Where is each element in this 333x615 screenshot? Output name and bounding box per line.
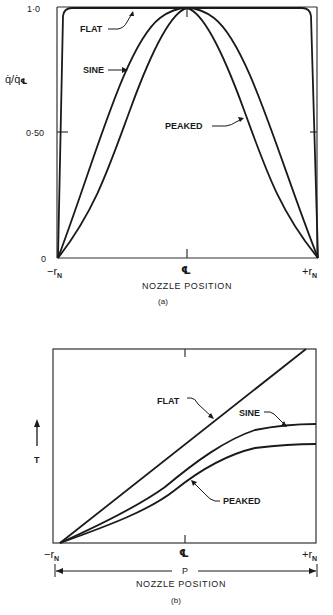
plot-a-arrowhead-flat bbox=[129, 11, 134, 16]
plot-a-curve-peaked bbox=[58, 8, 318, 258]
plot-b-xtick-centerline: ℄ bbox=[179, 547, 189, 559]
plot-a-ytick-1: 1·0 bbox=[27, 4, 40, 14]
plot-a-leader-flat bbox=[108, 12, 133, 29]
plot-a-leader-peaked bbox=[212, 119, 242, 126]
plot-b-label-flat: FLAT bbox=[157, 396, 180, 406]
plot-b-label-peaked: PEAKED bbox=[223, 496, 261, 506]
plot-a-arrowhead-peaked bbox=[238, 117, 244, 122]
figure-b: FLAT SINE PEAKED T −rN ℄ +rN P NOZZLE PO… bbox=[34, 349, 317, 605]
plot-a-curve-sine bbox=[58, 8, 318, 258]
plot-b-x-axis-label: NOZZLE POSITION bbox=[136, 579, 226, 589]
plot-a-xtick-plus-rn: +rN bbox=[302, 265, 317, 279]
plot-a-xtick-centerline: ℄ bbox=[181, 264, 191, 276]
plot-a-xtick-minus-rn: −rN bbox=[47, 265, 62, 279]
plot-a-ytick-0: 0 bbox=[41, 254, 46, 264]
plot-b-label-sine: SINE bbox=[239, 408, 260, 418]
plot-b-curve-peaked bbox=[60, 444, 316, 543]
plot-a-y-axis-label: q̇/q̇℄ bbox=[5, 73, 27, 86]
plot-a-caption: (a) bbox=[158, 297, 168, 306]
plot-b-xtick-minus-rn: −rN bbox=[44, 548, 59, 562]
plot-b-xtick-plus-rn: +rN bbox=[302, 548, 317, 562]
plot-a-ytick-050: 0·50 bbox=[26, 128, 44, 138]
figure-canvas: FLAT SINE PEAKED 1·0 0·50 0 q̇/q̇℄ −rN ℄… bbox=[0, 0, 333, 615]
plot-b-t-axis-arrow-icon bbox=[34, 419, 40, 427]
plot-a-label-flat: FLAT bbox=[80, 24, 103, 34]
plot-a-label-peaked: PEAKED bbox=[165, 121, 203, 131]
plot-b-leader-peaked bbox=[193, 482, 220, 501]
plot-b-caption: (b) bbox=[171, 596, 181, 605]
plot-b-leader-flat bbox=[187, 398, 212, 417]
plot-a-curve-flat bbox=[58, 8, 318, 258]
figure-a: FLAT SINE PEAKED 1·0 0·50 0 q̇/q̇℄ −rN ℄… bbox=[5, 4, 318, 306]
plot-b-span-label: P bbox=[182, 566, 188, 576]
plot-b-y-axis-label: T bbox=[34, 455, 40, 465]
plot-b-leader-sine bbox=[264, 412, 285, 425]
plot-a-label-sine: SINE bbox=[83, 65, 104, 75]
plot-b-span-arrow-left-icon bbox=[56, 568, 63, 574]
plot-a-x-axis-label: NOZZLE POSITION bbox=[142, 281, 232, 291]
plot-b-span-arrow-right-icon bbox=[309, 568, 316, 574]
